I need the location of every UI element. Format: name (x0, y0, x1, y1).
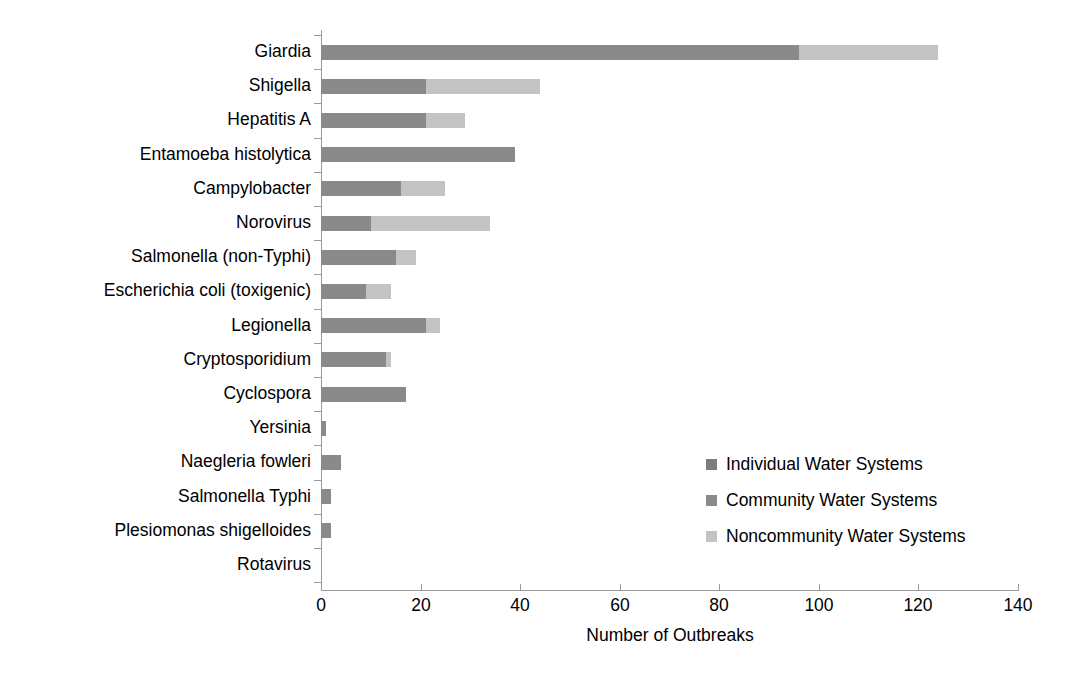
legend-label: Community Water Systems (726, 490, 937, 511)
category-label: Shigella (11, 77, 311, 95)
x-axis-line (321, 590, 1019, 591)
stacked-bar-chart: GiardiaShigellaHepatitis AEntamoeba hist… (0, 0, 1092, 678)
bar-segment[interactable] (321, 284, 366, 299)
legend-item[interactable]: Individual Water Systems (706, 446, 1056, 482)
y-axis-category-labels: GiardiaShigellaHepatitis AEntamoeba hist… (6, 0, 311, 678)
category-label: Norovirus (11, 214, 311, 232)
x-axis-tick-label: 0 (291, 595, 351, 615)
y-axis-tick (314, 206, 321, 207)
y-axis-tick (314, 240, 321, 241)
category-label: Plesiomonas shigelloides (11, 522, 311, 540)
bar-segment[interactable] (321, 250, 396, 265)
bar-segment[interactable] (321, 523, 331, 538)
bar-segment[interactable] (371, 216, 490, 231)
x-axis-tick (321, 584, 322, 591)
x-axis-tick-label: 100 (789, 595, 849, 615)
x-axis-tick (620, 584, 621, 591)
x-axis-tick (520, 584, 521, 591)
bar-segment[interactable] (799, 45, 938, 60)
bar-segment[interactable] (426, 113, 466, 128)
x-axis-title: Number of Outbreaks (321, 625, 1019, 646)
bar-segment[interactable] (426, 79, 541, 94)
category-label: Entamoeba histolytica (11, 146, 311, 164)
bar-segment[interactable] (321, 45, 799, 60)
category-label: Campylobacter (11, 180, 311, 198)
category-label: Salmonella Typhi (11, 488, 311, 506)
bar-segment[interactable] (321, 147, 515, 162)
bar-segment[interactable] (386, 352, 391, 367)
legend-swatch-icon (706, 531, 717, 542)
category-label: Hepatitis A (11, 111, 311, 129)
category-label: Giardia (11, 43, 311, 61)
y-axis-tick (314, 582, 321, 583)
legend-item[interactable]: Community Water Systems (706, 482, 1056, 518)
legend-label: Noncommunity Water Systems (726, 526, 966, 547)
category-label: Cyclospora (11, 385, 311, 403)
x-axis-tick (918, 584, 919, 591)
y-axis-tick (314, 411, 321, 412)
y-axis-tick (314, 377, 321, 378)
legend-item[interactable]: Noncommunity Water Systems (706, 518, 1056, 554)
bar-segment[interactable] (321, 387, 406, 402)
bar-segment[interactable] (321, 79, 426, 94)
bar-segment[interactable] (321, 216, 371, 231)
y-axis-tick (314, 172, 321, 173)
bar-segment[interactable] (321, 489, 331, 504)
x-axis-tick (819, 584, 820, 591)
x-axis-tick (1018, 584, 1019, 591)
bar-segment[interactable] (321, 181, 401, 196)
legend-swatch-icon (706, 495, 717, 506)
y-axis-tick (314, 69, 321, 70)
category-label: Escherichia coli (toxigenic) (11, 282, 311, 300)
y-axis-tick (314, 548, 321, 549)
category-label: Salmonella (non-Typhi) (11, 248, 311, 266)
bar-segment[interactable] (401, 181, 446, 196)
category-label: Cryptosporidium (11, 351, 311, 369)
x-axis-tick (719, 584, 720, 591)
bar-segment[interactable] (396, 250, 416, 265)
legend-label: Individual Water Systems (726, 454, 923, 475)
bar-segment[interactable] (321, 113, 426, 128)
category-label: Rotavirus (11, 556, 311, 574)
x-axis-tick-label: 80 (689, 595, 749, 615)
x-axis-tick-label: 140 (988, 595, 1048, 615)
x-axis-tick-label: 40 (490, 595, 550, 615)
x-axis-tick-label: 120 (888, 595, 948, 615)
legend-swatch-icon (706, 459, 717, 470)
y-axis-tick (314, 309, 321, 310)
bar-segment[interactable] (426, 318, 441, 333)
y-axis-tick (314, 274, 321, 275)
y-axis-tick (314, 480, 321, 481)
bar-segment[interactable] (321, 318, 426, 333)
x-axis-tick-label: 20 (391, 595, 451, 615)
y-axis-tick (314, 138, 321, 139)
category-label: Naegleria fowleri (11, 453, 311, 471)
category-label: Yersinia (11, 419, 311, 437)
x-axis-tick-label: 60 (590, 595, 650, 615)
x-axis-tick (421, 584, 422, 591)
bar-segment[interactable] (321, 421, 326, 436)
y-axis-tick (314, 35, 321, 36)
y-axis-tick (314, 103, 321, 104)
y-axis-tick (314, 445, 321, 446)
y-axis-tick (314, 343, 321, 344)
bar-segment[interactable] (321, 352, 386, 367)
category-label: Legionella (11, 317, 311, 335)
y-axis-tick (314, 514, 321, 515)
chart-legend: Individual Water SystemsCommunity Water … (706, 446, 1056, 554)
bar-segment[interactable] (321, 455, 341, 470)
bar-segment[interactable] (366, 284, 391, 299)
